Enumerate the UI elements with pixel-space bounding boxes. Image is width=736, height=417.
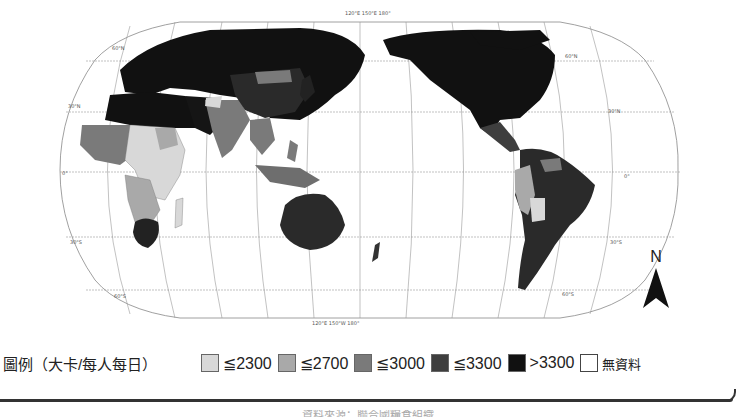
legend-label: >3300 bbox=[530, 354, 575, 372]
lat-label-30n-left: 30°N bbox=[68, 103, 81, 109]
divider-corner bbox=[724, 389, 736, 402]
legend-label: ≦3000 bbox=[376, 354, 425, 373]
mongolia-region bbox=[255, 70, 292, 84]
central-america-region bbox=[480, 122, 520, 152]
legend: 圖例（大卡/每人每日） ≦2300 ≦2700 ≦3000 ≦3300 >330… bbox=[3, 350, 647, 376]
lat-label-30s-right: 30°S bbox=[610, 239, 622, 245]
legend-label: 無資料 bbox=[602, 354, 641, 373]
north-arrow: N bbox=[641, 248, 671, 308]
lat-label-30n-right: 30°N bbox=[608, 108, 621, 114]
legend-label: ≦3300 bbox=[453, 354, 502, 373]
bottom-meridian-labels: 120°E 150°W 180° bbox=[312, 320, 360, 326]
legend-item-le3300: ≦3300 bbox=[431, 354, 502, 373]
australia-region bbox=[280, 194, 345, 250]
legend-swatch bbox=[508, 354, 526, 372]
legend-swatch bbox=[201, 354, 219, 372]
legend-swatch bbox=[580, 354, 598, 372]
legend-label: ≦2300 bbox=[223, 354, 272, 373]
legend-label: ≦2700 bbox=[300, 354, 349, 373]
new-zealand-region bbox=[372, 242, 380, 262]
map-canvas: 120°E 150°E 180° 60°N 30°N 0° 30°S 60°S … bbox=[0, 0, 736, 340]
legend-item-le2300: ≦2300 bbox=[201, 354, 272, 373]
lat-label-eq-left: 0° bbox=[62, 170, 68, 176]
source-caption: 資料來源：聯合國糧食組織 bbox=[0, 410, 736, 417]
lat-label-30s-left: 30°S bbox=[70, 239, 82, 245]
legend-item-gt3300: >3300 bbox=[508, 354, 575, 372]
lat-label-60n-right: 60°N bbox=[565, 53, 578, 59]
indonesia-region bbox=[255, 165, 320, 188]
divider-line bbox=[0, 399, 733, 402]
legend-swatch bbox=[278, 354, 296, 372]
legend-item-no-data: 無資料 bbox=[580, 354, 641, 373]
top-meridian-labels: 120°E 150°E 180° bbox=[345, 10, 391, 16]
madagascar-region bbox=[175, 198, 183, 228]
southeast-asia-region bbox=[250, 118, 275, 155]
north-arrow-icon bbox=[643, 268, 669, 308]
philippines-region bbox=[287, 140, 298, 162]
legend-swatch bbox=[354, 354, 372, 372]
legend-title: 圖例（大卡/每人每日） bbox=[3, 353, 157, 374]
legend-item-le2700: ≦2700 bbox=[278, 354, 349, 373]
lat-label-60n-left: 60°N bbox=[112, 45, 125, 51]
north-letter: N bbox=[641, 248, 671, 266]
lat-label-60s-left: 60°S bbox=[114, 293, 126, 299]
continents bbox=[80, 28, 595, 290]
lat-label-60s-right: 60°S bbox=[562, 291, 574, 297]
lat-label-eq-right: 0° bbox=[624, 173, 630, 179]
world-map: 120°E 150°E 180° 60°N 30°N 0° 30°S 60°S … bbox=[0, 0, 736, 340]
legend-swatch bbox=[431, 354, 449, 372]
bolivia-region bbox=[530, 198, 545, 222]
south-africa-region bbox=[133, 219, 159, 249]
legend-item-le3000: ≦3000 bbox=[354, 354, 425, 373]
